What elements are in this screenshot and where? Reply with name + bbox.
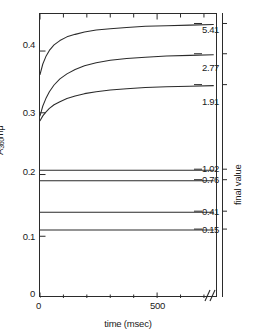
- y-axis-title-suffix: mμ: [0, 125, 5, 138]
- final-value-label-076: 0.76: [193, 174, 219, 185]
- y-axis-title-prefix: A: [0, 149, 5, 155]
- final-value-label-277: 2.77: [193, 62, 219, 73]
- curve-541: [40, 25, 213, 75]
- y-tick-label-01: 0.1: [11, 231, 35, 242]
- axis-ticks: [40, 14, 204, 298]
- right-axis-title: final value: [232, 115, 243, 205]
- x-tick-label-0: 0: [36, 300, 41, 311]
- curve-277: [40, 55, 213, 116]
- y-axis-title-subscript: 360: [0, 138, 5, 148]
- x-axis-title: time (msec): [0, 318, 256, 329]
- curves-svg: [40, 14, 218, 298]
- y-tick-label-0: 0: [11, 288, 35, 299]
- y-tick-label-02: 0.2: [11, 166, 35, 177]
- final-value-label-015: 0.15: [193, 224, 219, 235]
- figure-container: 0.4 0.3 0.2 0.1 0 A360mμ 0 500 time (mse…: [0, 0, 256, 335]
- final-value-label-191: 1.91: [193, 96, 219, 107]
- final-value-label-102: 1.02: [193, 163, 219, 174]
- y-tick-label-03: 0.3: [11, 107, 35, 118]
- data-curves: [40, 25, 213, 231]
- right-axis-ticks-svg: [194, 13, 228, 297]
- final-value-label-541: 5.41: [193, 24, 219, 35]
- final-value-label-041: 0.41: [193, 206, 219, 217]
- x-tick-label-500: 500: [150, 300, 165, 311]
- y-axis-title: A360mμ: [0, 75, 5, 155]
- curve-191: [40, 86, 213, 121]
- y-tick-label-04: 0.4: [11, 39, 35, 50]
- plot-area: [39, 13, 217, 297]
